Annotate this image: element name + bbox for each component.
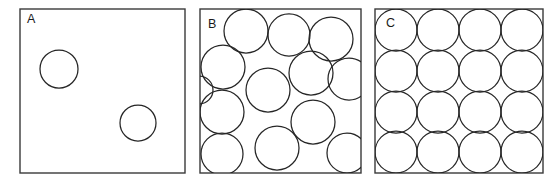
particle-circle [501, 50, 543, 92]
particle-circle [375, 50, 417, 92]
particle-circle [328, 58, 370, 100]
panel-c: C [375, 9, 543, 173]
particle-circle [417, 91, 459, 133]
particle-circle [40, 50, 78, 88]
packing-diagram-figure: ABC [0, 0, 558, 182]
particle-circle [417, 131, 459, 173]
panel-b: B [185, 9, 370, 175]
particle-circle [375, 131, 417, 173]
panel-label-b: B [208, 17, 216, 31]
panel-border-a [20, 9, 185, 173]
diagram-canvas: ABC [0, 0, 558, 182]
particle-circle [375, 9, 417, 51]
panel-a: A [20, 9, 185, 173]
particle-circle [246, 68, 290, 112]
particle-circle [417, 9, 459, 51]
particle-circle [459, 9, 501, 51]
particle-circle [375, 91, 417, 133]
panel-label-c: C [386, 16, 395, 30]
particle-circle [459, 50, 501, 92]
particle-circle [291, 100, 335, 144]
particle-circle [501, 131, 543, 173]
particle-circle [501, 9, 543, 51]
particle-circle [459, 91, 501, 133]
particle-circle [268, 14, 310, 56]
particle-circle [120, 105, 156, 141]
particle-circle [185, 76, 213, 104]
particle-circle [289, 51, 333, 95]
particle-circle [201, 133, 243, 175]
panel-label-a: A [27, 12, 36, 26]
particle-circle [417, 50, 459, 92]
particle-circle [255, 126, 299, 170]
particle-circle [327, 133, 367, 173]
particle-circle [459, 131, 501, 173]
particle-circle [501, 91, 543, 133]
